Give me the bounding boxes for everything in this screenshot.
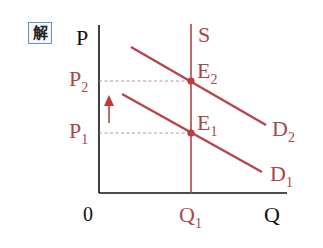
label-p1: P1 bbox=[69, 118, 88, 147]
origin-label: 0 bbox=[83, 203, 93, 225]
label-d1: D1 bbox=[270, 161, 293, 190]
label-e1: E1 bbox=[197, 110, 217, 139]
label-p2: P2 bbox=[69, 66, 88, 95]
equilibrium-point-e2 bbox=[187, 77, 194, 84]
y-axis-label: P bbox=[76, 25, 88, 50]
x-axis-label: Q bbox=[264, 202, 280, 227]
supply-demand-diagram: P Q 0 S E2 E1 D2 D1 P2 P1 Q1 bbox=[0, 0, 323, 248]
equilibrium-point-e1 bbox=[187, 129, 194, 136]
label-e2: E2 bbox=[197, 58, 217, 87]
arrow-up-icon bbox=[104, 95, 114, 106]
label-d2: D2 bbox=[272, 116, 295, 145]
label-s: S bbox=[198, 22, 210, 47]
label-q1: Q1 bbox=[179, 202, 202, 231]
